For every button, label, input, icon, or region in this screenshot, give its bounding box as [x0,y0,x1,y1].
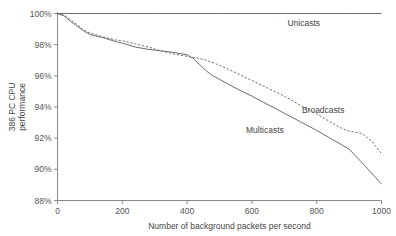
series-label-multicasts: Multicasts [246,125,284,135]
series-line-broadcasts [58,14,382,154]
series-label-unicasts: Unicasts [287,18,320,28]
y-tick-label: 90% [34,164,51,174]
x-tick-label: 1000 [372,206,391,216]
series-line-multicasts [58,14,382,185]
y-axis-title: 386 PC CPU performance [7,83,27,132]
series-label-broadcasts: Broadcasts [302,105,345,115]
y-tick-label: 94% [34,102,51,112]
x-tick-label: 600 [245,206,259,216]
y-axis-title-line-2: performance [17,83,27,131]
y-tick-label: 96% [34,71,51,81]
x-axis-ticks: 02004006008001000 [55,201,391,216]
chart-series-labels: UnicastsBroadcastsMulticasts [246,18,344,136]
y-tick-label: 98% [34,40,51,50]
x-tick-label: 800 [310,206,324,216]
y-axis-title-line-1: 386 PC CPU [7,83,17,132]
chart-series-layer [58,14,382,185]
y-tick-label: 88% [34,196,51,206]
x-tick-label: 200 [115,206,129,216]
y-axis-ticks: 88%90%92%94%96%98%100% [30,9,58,206]
x-tick-label: 0 [55,206,60,216]
chart-figure: 88%90%92%94%96%98%100% 02004006008001000… [0,0,396,236]
x-tick-label: 400 [180,206,194,216]
y-tick-label: 92% [34,133,51,143]
x-axis-title: Number of background packets per second [148,221,311,231]
y-tick-label: 100% [30,9,52,19]
